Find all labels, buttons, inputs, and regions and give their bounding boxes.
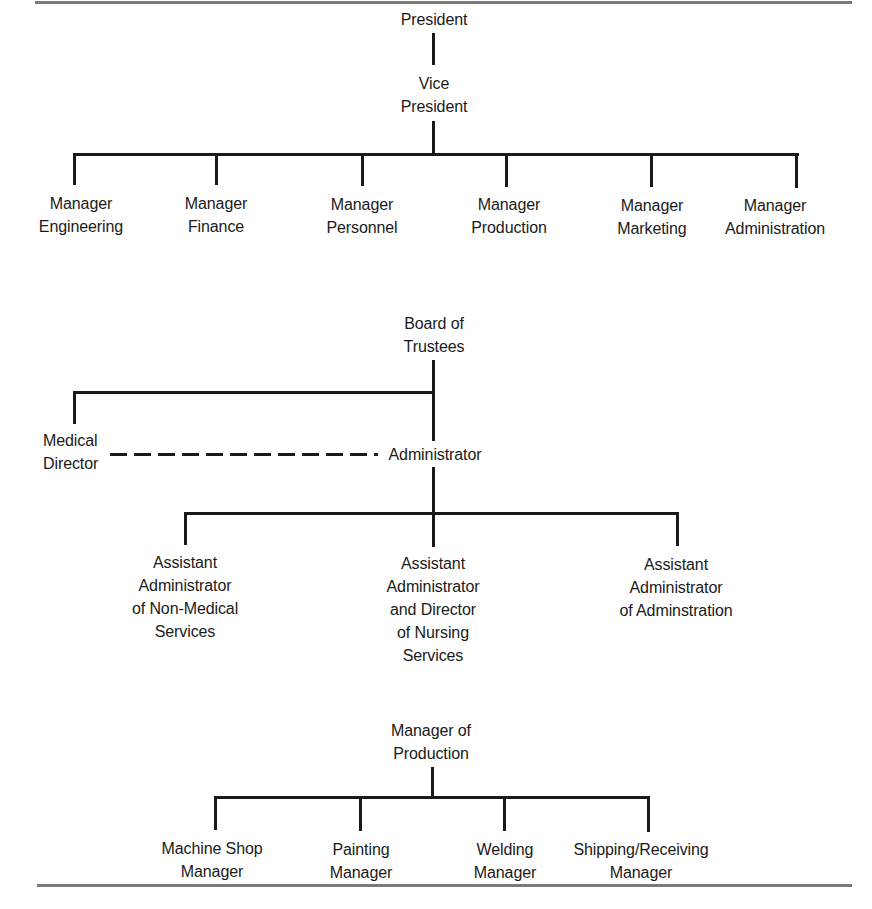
- connector: [503, 797, 506, 831]
- node-label: Director: [43, 452, 98, 475]
- connector: [432, 360, 435, 441]
- node-machine-shop-manager: Machine Shop Manager: [161, 837, 262, 883]
- node-label: Vice: [401, 72, 468, 95]
- node-label: Manager: [185, 192, 247, 215]
- node-label: Production: [391, 742, 471, 765]
- node-painting-manager: Painting Manager: [330, 838, 392, 884]
- node-asst-admin-nursing: Assistant Administrator and Director of …: [387, 552, 480, 667]
- node-label: Welding: [474, 838, 536, 861]
- node-label: President: [401, 95, 468, 118]
- node-manager-of-production: Manager of Production: [391, 719, 471, 765]
- node-label: Manager: [474, 861, 536, 884]
- connector: [73, 153, 76, 185]
- node-manager-marketing: Manager Marketing: [617, 194, 686, 240]
- node-label: Shipping/Receiving: [573, 838, 708, 861]
- node-board-of-trustees: Board of Trustees: [404, 312, 465, 358]
- node-administrator: Administrator: [389, 443, 482, 466]
- node-label: Administrator: [132, 574, 238, 597]
- node-label: Manager: [326, 193, 397, 216]
- node-label: Manager: [471, 193, 547, 216]
- node-label: Assistant: [619, 553, 732, 576]
- node-asst-admin-non-medical: Assistant Administrator of Non-Medical S…: [132, 551, 238, 643]
- node-label: and Director: [387, 598, 480, 621]
- connector: [359, 797, 362, 831]
- node-manager-personnel: Manager Personnel: [326, 193, 397, 239]
- node-label: of Adminstration: [619, 599, 732, 622]
- connector: [73, 153, 799, 156]
- connector: [432, 467, 435, 547]
- node-label: Trustees: [404, 335, 465, 358]
- node-label: Engineering: [39, 215, 123, 238]
- node-label: Finance: [185, 215, 247, 238]
- dashed-staff-connector: [110, 453, 378, 456]
- node-label: Painting: [330, 838, 392, 861]
- connector: [505, 154, 508, 187]
- node-shipping-receiving-manager: Shipping/Receiving Manager: [573, 838, 708, 884]
- node-label: Services: [132, 620, 238, 643]
- node-label: Medical: [43, 429, 98, 452]
- connector: [431, 767, 434, 799]
- node-label: Manager: [39, 192, 123, 215]
- connector: [432, 121, 435, 156]
- connector: [361, 153, 364, 186]
- node-label: Manager: [617, 194, 686, 217]
- node-label: Production: [471, 216, 547, 239]
- node-manager-finance: Manager Finance: [185, 192, 247, 238]
- connector: [214, 796, 217, 830]
- connector: [73, 391, 76, 424]
- bottom-rule: [37, 884, 852, 887]
- node-asst-admin-administration: Assistant Administrator of Adminstration: [619, 553, 732, 622]
- node-label: Board of: [404, 312, 465, 335]
- node-welding-manager: Welding Manager: [474, 838, 536, 884]
- connector: [676, 513, 679, 546]
- connector: [795, 154, 798, 188]
- node-president: President: [401, 8, 468, 31]
- node-label: President: [401, 8, 468, 31]
- node-label: of Nursing: [387, 621, 480, 644]
- connector: [432, 33, 435, 65]
- node-label: Manager: [725, 194, 825, 217]
- node-label: of Non-Medical: [132, 597, 238, 620]
- node-label: Administration: [725, 217, 825, 240]
- connector: [650, 154, 653, 187]
- node-label: Assistant: [132, 551, 238, 574]
- connector: [647, 797, 650, 832]
- connector: [184, 512, 679, 515]
- node-label: Assistant: [387, 552, 480, 575]
- node-label: Machine Shop: [161, 837, 262, 860]
- node-label: Administrator: [619, 576, 732, 599]
- node-vice-president: Vice President: [401, 72, 468, 118]
- node-label: Marketing: [617, 217, 686, 240]
- top-rule: [35, 1, 852, 4]
- node-label: Services: [387, 644, 480, 667]
- node-label: Personnel: [326, 216, 397, 239]
- node-label: Administrator: [389, 443, 482, 466]
- connector: [184, 512, 187, 545]
- node-manager-engineering: Manager Engineering: [39, 192, 123, 238]
- node-label: Manager: [161, 860, 262, 883]
- node-medical-director: Medical Director: [43, 429, 98, 475]
- node-manager-administration: Manager Administration: [725, 194, 825, 240]
- connector: [73, 391, 435, 394]
- connector: [215, 153, 218, 185]
- node-manager-production: Manager Production: [471, 193, 547, 239]
- node-label: Manager: [330, 861, 392, 884]
- connector: [214, 796, 650, 799]
- node-label: Administrator: [387, 575, 480, 598]
- node-label: Manager of: [391, 719, 471, 742]
- node-label: Manager: [573, 861, 708, 884]
